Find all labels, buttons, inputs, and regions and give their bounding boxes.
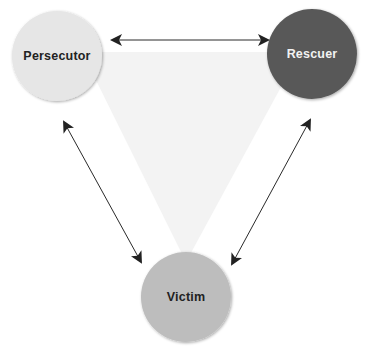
node-persecutor: Persecutor <box>12 11 102 101</box>
rescuer-label: Rescuer <box>287 47 338 61</box>
drama-triangle-diagram: Persecutor Rescuer Victim <box>0 0 374 363</box>
node-victim: Victim <box>141 252 231 342</box>
persecutor-label: Persecutor <box>23 49 90 63</box>
node-rescuer: Rescuer <box>267 9 357 99</box>
background-triangle <box>82 52 300 262</box>
victim-label: Victim <box>167 290 206 304</box>
